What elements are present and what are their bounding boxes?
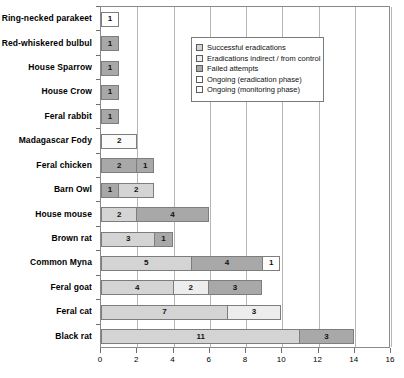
bar-segment[interactable]: 2 (118, 183, 154, 198)
bar-value-label: 2 (134, 186, 138, 194)
x-tick (136, 348, 137, 353)
category-label-row: Common Myna (0, 250, 96, 274)
x-tick-label: 12 (313, 355, 322, 364)
bar-segment[interactable]: 1 (101, 12, 119, 27)
bar-segment[interactable]: 3 (227, 305, 281, 320)
bar-segment[interactable]: 1 (101, 109, 119, 124)
category-label-row: Red-whiskered bulbul (0, 30, 96, 54)
x-tick (390, 348, 391, 353)
bar-value-label: 2 (117, 162, 121, 170)
legend-item[interactable]: Ongoing (monitoring phase) (196, 86, 318, 94)
bar-value-label: 4 (135, 284, 139, 292)
legend-item[interactable]: Failed attempts (196, 65, 318, 73)
stacked-bar[interactable]: 12 (101, 183, 154, 198)
stacked-bar[interactable]: 31 (101, 232, 173, 247)
legend-item[interactable]: Ongoing (eradication phase) (196, 76, 318, 84)
x-tick-label: 2 (134, 355, 138, 364)
legend-swatch-icon (196, 76, 203, 83)
bar-value-label: 7 (162, 308, 166, 316)
category-label: Ring-necked parakeet (2, 13, 92, 23)
x-tick-label: 0 (98, 355, 102, 364)
bar-segment[interactable]: 4 (191, 256, 264, 271)
bar-segment[interactable]: 1 (101, 85, 119, 100)
bar-segment[interactable]: 1 (101, 61, 119, 76)
bar-segment[interactable]: 1 (262, 256, 280, 271)
bar-segment[interactable]: 2 (101, 158, 137, 173)
stacked-bar[interactable]: 423 (101, 280, 262, 295)
category-label-row: House mouse (0, 201, 96, 225)
bar-segment[interactable]: 1 (101, 36, 119, 51)
bar-value-label: 2 (188, 284, 192, 292)
bar-value-label: 1 (108, 40, 112, 48)
stacked-bar[interactable]: 24 (101, 207, 209, 222)
stacked-bar[interactable]: 73 (101, 305, 281, 320)
bar-segment[interactable]: 1 (154, 232, 172, 247)
category-label: Barn Owl (54, 184, 92, 194)
bar-segment[interactable]: 5 (101, 256, 192, 271)
bar-row: 1 (101, 7, 389, 31)
bar-value-label: 1 (108, 113, 112, 121)
legend-item[interactable]: Eradications indirect / from control (196, 55, 318, 63)
legend-item[interactable]: Successful eradications (196, 44, 318, 52)
stacked-bar[interactable]: 1 (101, 61, 119, 76)
legend-label: Ongoing (eradication phase) (207, 76, 302, 84)
bar-value-label: 3 (126, 235, 130, 243)
legend-label: Ongoing (monitoring phase) (207, 86, 300, 94)
stacked-bar[interactable]: 21 (101, 158, 154, 173)
legend-swatch-icon (196, 65, 203, 72)
bar-segment[interactable]: 3 (299, 329, 353, 344)
legend-label: Successful eradications (207, 44, 286, 52)
category-label-row: Black rat (0, 323, 96, 347)
stacked-bar[interactable]: 2 (101, 134, 137, 149)
bar-value-label: 5 (144, 259, 148, 267)
bar-value-label: 11 (196, 333, 204, 341)
x-tick-label: 8 (243, 355, 247, 364)
bar-segment[interactable]: 3 (101, 232, 155, 247)
stacked-bar[interactable]: 541 (101, 256, 280, 271)
category-label-row: Feral cat (0, 299, 96, 323)
bar-segment[interactable]: 7 (101, 305, 228, 320)
bar-segment[interactable]: 2 (101, 134, 137, 149)
stacked-bar[interactable]: 1 (101, 36, 119, 51)
bar-row: 423 (101, 276, 389, 300)
category-label: Common Myna (30, 257, 92, 267)
category-label: Feral goat (50, 282, 92, 292)
bar-segment[interactable]: 1 (136, 158, 154, 173)
category-label-row: Feral goat (0, 275, 96, 299)
bar-value-label: 3 (252, 308, 256, 316)
x-tick (173, 348, 174, 353)
bar-row: 31 (101, 227, 389, 251)
bar-segment[interactable]: 2 (101, 207, 137, 222)
x-tick-label: 6 (207, 355, 211, 364)
x-tick-label: 14 (349, 355, 358, 364)
x-axis: 0246810121416 (100, 348, 390, 374)
x-tick (281, 348, 282, 353)
bar-segment[interactable]: 4 (101, 280, 174, 295)
stacked-bar[interactable]: 113 (101, 329, 354, 344)
bar-segment[interactable]: 3 (208, 280, 262, 295)
x-tick-label: 16 (386, 355, 395, 364)
stacked-bar[interactable]: 1 (101, 109, 119, 124)
category-label-row: Feral rabbit (0, 104, 96, 128)
category-axis: Ring-necked parakeetRed-whiskered bulbul… (0, 6, 96, 348)
bar-segment[interactable]: 1 (101, 183, 119, 198)
category-label: Feral rabbit (45, 111, 93, 121)
bar-row: 73 (101, 300, 389, 324)
category-label-row: Brown rat (0, 226, 96, 250)
category-label: Brown rat (51, 233, 92, 243)
bar-segment[interactable]: 11 (101, 329, 300, 344)
gridline (391, 7, 392, 347)
bar-value-label: 1 (108, 88, 112, 96)
legend-swatch-icon (196, 86, 203, 93)
bar-segment[interactable]: 4 (136, 207, 209, 222)
category-label: House Crow (41, 86, 92, 96)
category-label-row: Barn Owl (0, 177, 96, 201)
stacked-bar[interactable]: 1 (101, 12, 119, 27)
stacked-bar[interactable]: 1 (101, 85, 119, 100)
bar-value-label: 1 (108, 64, 112, 72)
x-tick (245, 348, 246, 353)
category-label: Red-whiskered bulbul (2, 38, 92, 48)
bar-segment[interactable]: 2 (173, 280, 209, 295)
category-label-row: Feral chicken (0, 153, 96, 177)
bar-value-label: 1 (108, 186, 112, 194)
